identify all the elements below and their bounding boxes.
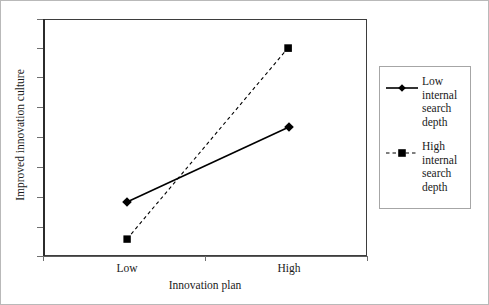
- x-axis-tick: [367, 256, 368, 261]
- legend-label-line: internal: [422, 89, 470, 103]
- plot-area: [43, 19, 367, 256]
- y-axis-tick: [37, 197, 43, 198]
- legend-sample-high: [385, 147, 419, 159]
- legend-label-line: search: [422, 102, 470, 116]
- legend-sample-low: [385, 82, 419, 94]
- y-axis-line: [43, 19, 45, 257]
- legend-label-line: internal: [422, 154, 470, 168]
- y-axis-tick: [37, 48, 43, 49]
- legend-label-line: High: [422, 140, 470, 154]
- legend-label-line: Low: [422, 75, 470, 89]
- x-axis-tick: [205, 256, 206, 261]
- square-marker-icon: [398, 149, 406, 157]
- legend-label-line: depth: [422, 116, 470, 130]
- x-axis-title: Innovation plan: [43, 279, 367, 291]
- y-axis-title: Improved innovation culture: [14, 35, 26, 235]
- legend-label-line: depth: [422, 181, 470, 195]
- y-axis-tick: [37, 227, 43, 228]
- diamond-marker-icon: [398, 84, 406, 92]
- chart-figure: Improved innovation culture Low High Inn…: [0, 0, 489, 305]
- y-axis-tick: [37, 77, 43, 78]
- legend-label-high: High internal search depth: [422, 140, 470, 194]
- chart-legend: Low internal search depth High internal …: [379, 66, 471, 209]
- legend-label-low: Low internal search depth: [422, 75, 470, 129]
- x-axis-tick-label: High: [249, 262, 329, 274]
- x-axis-tick: [43, 256, 44, 261]
- x-axis-tick-label: Low: [87, 262, 167, 274]
- y-axis-tick: [37, 107, 43, 108]
- y-axis-tick: [37, 19, 43, 20]
- y-axis-tick: [37, 167, 43, 168]
- y-axis-tick: [37, 137, 43, 138]
- legend-label-line: search: [422, 167, 470, 181]
